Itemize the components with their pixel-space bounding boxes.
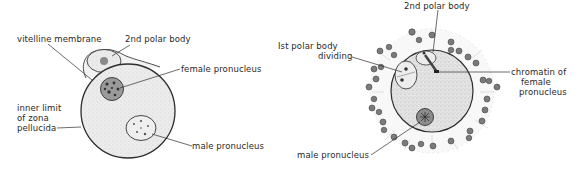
label-male-pronucleus-right: male pronucleus <box>297 150 369 160</box>
right-egg <box>352 10 510 155</box>
label-first-polar-body-2: dividing <box>318 51 353 61</box>
label-female-pronucleus: female pronucleus <box>181 64 261 74</box>
label-male-pronucleus-left: male pronucleus <box>192 141 264 151</box>
label-inner-limit-3: pellucida <box>17 123 56 133</box>
label-inner-limit-1: inner limit <box>17 103 61 113</box>
first-polar-body-shape <box>395 61 417 89</box>
label-chromatin-2: female <box>521 77 551 87</box>
label-vitelline-membrane: vitelline membrane <box>17 34 102 44</box>
label-chromatin-1: chromatin of <box>511 67 566 77</box>
polar-body-nucleus <box>100 57 108 65</box>
left-egg <box>48 44 192 158</box>
egg-cell <box>81 64 175 158</box>
label-inner-limit-2: of zona <box>17 113 49 123</box>
label-first-polar-body-1: Ist polar body <box>278 41 338 51</box>
label-second-polar-body-left: 2nd polar body <box>125 34 191 44</box>
label-second-polar-body-right: 2nd polar body <box>404 1 470 11</box>
diagram-drawing <box>0 0 583 175</box>
label-chromatin-3: pronucleus <box>519 87 567 97</box>
embryology-diagram: vitelline membrane 2nd polar body female… <box>0 0 583 175</box>
